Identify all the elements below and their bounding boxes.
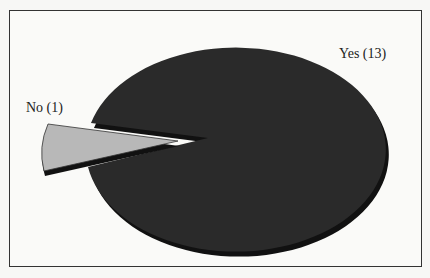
label-no: No (1)	[26, 100, 63, 116]
pie-chart	[0, 0, 430, 278]
label-yes: Yes (13)	[339, 46, 386, 62]
